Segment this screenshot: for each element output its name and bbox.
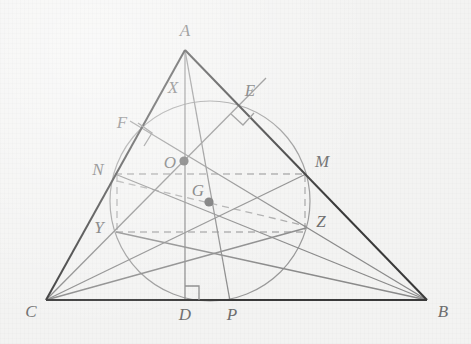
point-label-E: E [244, 81, 256, 100]
point-label-X: X [167, 78, 179, 97]
geometry-diagram: A B C D P E F X M N Y Z O G [0, 0, 471, 344]
median-B-to-N [115, 174, 427, 300]
point-label-A: A [179, 21, 191, 40]
triangle-side-AB [185, 50, 427, 300]
point-label-O: O [164, 153, 176, 172]
triangle-side-AC [46, 50, 185, 300]
circumcenter-point-O [179, 156, 188, 165]
centroid-point-G [204, 197, 213, 206]
point-label-M: M [314, 152, 330, 171]
point-label-D: D [178, 305, 192, 324]
point-label-C: C [25, 302, 37, 321]
cevian-B-to-Y [116, 232, 427, 300]
cevian-C-to-Z [46, 228, 306, 300]
point-label-N: N [91, 160, 105, 179]
cevian-A-to-P [185, 50, 230, 301]
point-label-Z: Z [316, 212, 326, 231]
point-label-Y: Y [94, 218, 105, 237]
altitude-C-to-E [46, 78, 266, 300]
point-label-G: G [192, 181, 204, 200]
point-label-B: B [438, 302, 449, 321]
median-C-to-M [46, 174, 306, 300]
point-label-P: P [226, 305, 237, 324]
point-label-F: F [116, 113, 128, 132]
figure-canvas: A B C D P E F X M N Y Z O G [0, 0, 471, 344]
